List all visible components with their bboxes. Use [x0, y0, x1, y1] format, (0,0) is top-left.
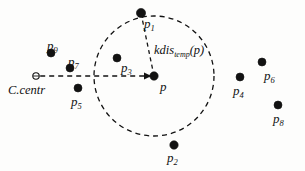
- point-label-p9: p9: [47, 39, 58, 52]
- point-label-p5: p5: [71, 95, 82, 108]
- kdist-prefix: kdis: [154, 43, 174, 57]
- point-label-base-p9: p: [47, 38, 54, 53]
- data-point-p5: [74, 84, 82, 92]
- cluster-center-label: C.centr: [8, 84, 45, 97]
- data-point-p8: [274, 101, 282, 109]
- point-label-p: p: [160, 80, 167, 93]
- point-label-subscript-p3: 3: [128, 67, 132, 77]
- kdist-subscript: temp: [174, 50, 190, 59]
- point-label-base-p2: p: [167, 150, 174, 165]
- point-label-base-p: p: [160, 79, 167, 94]
- point-label-p4: p4: [233, 84, 244, 97]
- point-label-subscript-p1: 1: [151, 23, 155, 33]
- point-label-base-p7: p: [68, 54, 75, 69]
- point-label-base-p5: p: [71, 94, 78, 109]
- data-point-p3: [113, 54, 121, 62]
- point-label-p6: p6: [264, 69, 275, 82]
- point-label-p1: p1: [144, 17, 155, 30]
- data-point-p6: [258, 58, 266, 66]
- point-label-p2: p2: [167, 151, 178, 164]
- kdist-suffix: (p): [190, 43, 205, 57]
- point-label-base-p6: p: [264, 68, 271, 83]
- data-point-p4: [236, 73, 244, 81]
- point-label-subscript-p2: 2: [174, 157, 178, 167]
- point-label-subscript-p8: 8: [280, 118, 284, 128]
- point-label-base-p4: p: [233, 83, 240, 98]
- point-label-base-p3: p: [121, 60, 128, 75]
- point-label-p8: p8: [273, 112, 284, 125]
- point-label-base-p1: p: [144, 16, 151, 31]
- point-label-base-p8: p: [273, 111, 280, 126]
- cluster-center-marker-group: [33, 73, 39, 79]
- point-label-subscript-p9: 9: [54, 45, 58, 55]
- point-label-subscript-p7: 7: [75, 61, 79, 71]
- point-label-subscript-p4: 4: [240, 90, 244, 100]
- point-label-p7: p7: [68, 55, 79, 68]
- kdist-annotation-label: kdistemp(p): [154, 44, 204, 57]
- data-point-p2: [170, 141, 178, 149]
- point-label-subscript-p6: 6: [271, 75, 275, 85]
- diagram-canvas: pp1p2p3p4p5p6p7p8p9 C.centr kdistemp(p): [0, 0, 305, 171]
- point-label-p3: p3: [121, 61, 132, 74]
- point-label-subscript-p5: 5: [78, 101, 82, 111]
- data-point-p: [150, 72, 158, 80]
